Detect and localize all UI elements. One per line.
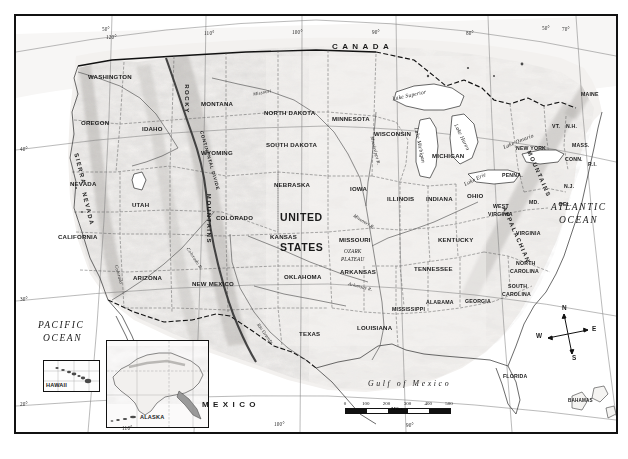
scale-tick: 100 — [362, 401, 370, 406]
hawaii-inset-box — [43, 360, 100, 392]
scale-segment — [408, 409, 429, 413]
scale-segment — [429, 409, 450, 413]
scale-segment — [346, 409, 367, 413]
scale-bar: 0 100 200 300 400 500 Miles — [345, 401, 449, 414]
scale-bar-unit: Miles — [391, 406, 402, 411]
map-screenshot: HAWAII — [0, 0, 628, 459]
hawaii-inset-map — [44, 361, 99, 391]
alaska-inset-map — [107, 341, 208, 427]
scale-tick: 400 — [424, 401, 432, 406]
scale-tick: 300 — [404, 401, 412, 406]
scale-tick: 200 — [383, 401, 391, 406]
compass-rose — [540, 306, 596, 362]
scale-segment — [367, 409, 388, 413]
alaska-inset-box — [106, 340, 209, 428]
scale-tick: 500 — [445, 401, 453, 406]
scale-tick: 0 — [344, 401, 347, 406]
map-neatline-frame: HAWAII — [14, 14, 618, 434]
compass-rose-graphic — [540, 306, 596, 362]
